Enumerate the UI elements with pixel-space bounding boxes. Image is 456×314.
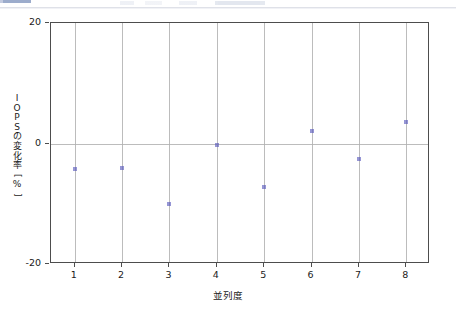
plot-area bbox=[50, 22, 429, 263]
x-tick-label: 8 bbox=[394, 269, 416, 280]
x-gridline bbox=[75, 23, 76, 262]
x-gridline bbox=[169, 23, 170, 262]
data-point bbox=[310, 129, 314, 133]
x-tick-label: 1 bbox=[63, 269, 85, 280]
x-tick-label: 4 bbox=[205, 269, 227, 280]
x-tick bbox=[168, 263, 169, 267]
x-tick bbox=[216, 263, 217, 267]
x-tick-label: 5 bbox=[252, 269, 274, 280]
x-gridline bbox=[312, 23, 313, 262]
x-tick-label: 6 bbox=[300, 269, 322, 280]
x-axis-label: 並列度 bbox=[0, 288, 456, 302]
y-tick bbox=[45, 143, 49, 144]
chart-figure: I O P S の 変 化 率 [ % ] 並列度 12345678200-20 bbox=[0, 9, 456, 314]
y-tick-label: 0 bbox=[15, 137, 41, 148]
browser-url-ghost[interactable] bbox=[215, 1, 265, 5]
zero-gridline bbox=[51, 144, 428, 145]
browser-active-tab[interactable] bbox=[3, 0, 31, 3]
data-point bbox=[262, 185, 266, 189]
x-gridline bbox=[122, 23, 123, 262]
data-point bbox=[167, 202, 171, 206]
browser-chrome-strip bbox=[0, 0, 456, 9]
x-tick bbox=[358, 263, 359, 267]
ylabel-char: [ bbox=[12, 168, 22, 184]
x-gridline bbox=[359, 23, 360, 262]
data-point bbox=[404, 120, 408, 124]
x-gridline bbox=[264, 23, 265, 262]
x-tick-label: 2 bbox=[110, 269, 132, 280]
data-point bbox=[357, 157, 361, 161]
x-gridline bbox=[406, 23, 407, 262]
data-point bbox=[215, 143, 219, 147]
x-tick-label: 3 bbox=[157, 269, 179, 280]
x-tick bbox=[311, 263, 312, 267]
x-tick bbox=[405, 263, 406, 267]
data-point bbox=[73, 167, 77, 171]
y-tick bbox=[45, 22, 49, 23]
data-point bbox=[120, 166, 124, 170]
x-tick bbox=[263, 263, 264, 267]
x-tick bbox=[74, 263, 75, 267]
y-tick-label: 20 bbox=[15, 16, 41, 27]
x-tick-label: 7 bbox=[347, 269, 369, 280]
x-tick bbox=[121, 263, 122, 267]
ylabel-char: ] bbox=[12, 187, 22, 203]
y-tick bbox=[45, 263, 49, 264]
y-tick-label: -20 bbox=[15, 257, 41, 268]
